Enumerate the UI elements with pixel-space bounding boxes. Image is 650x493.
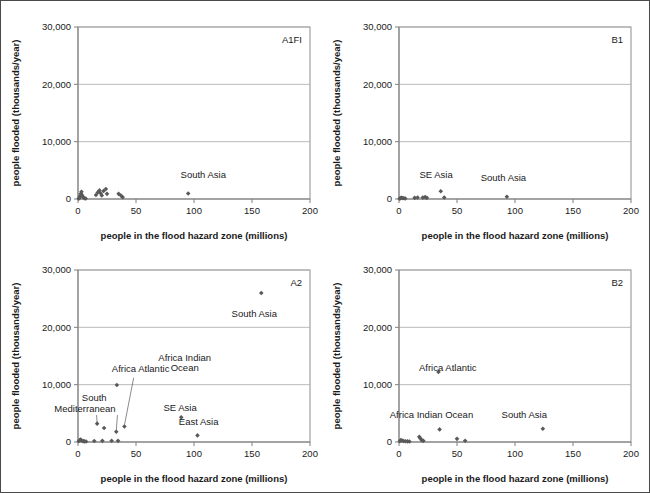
x-tick-label: 0 [396,205,401,216]
scatter-plot-a1fi: 010,00020,00030,000050100150200people in… [5,5,326,247]
x-tick-label: 150 [244,205,260,216]
data-label: Africa Atlantic [112,363,170,374]
x-axis-title: people in the flood hazard zone (million… [422,230,609,241]
x-tick-label: 150 [244,448,260,459]
y-tick-label: 10,000 [42,379,71,390]
data-label: South Asia [181,169,227,180]
data-label: Mediterranean [54,402,115,413]
panel-b2: 010,00020,00030,000050100150200people in… [326,248,647,491]
x-tick-label: 50 [131,205,142,216]
x-tick-label: 0 [396,448,401,459]
x-axis-title: people in the flood hazard zone (million… [422,473,609,484]
y-tick-label: 0 [66,436,71,447]
panel-code-label: A2 [290,277,302,288]
y-tick-label: 10,000 [42,136,71,147]
x-tick-label: 50 [131,448,142,459]
data-label: South Asia [481,172,527,183]
y-tick-label: 20,000 [42,321,71,332]
x-tick-label: 0 [75,205,80,216]
x-tick-label: 50 [452,205,463,216]
x-axis-title: people in the flood hazard zone (million… [101,230,288,241]
x-tick-label: 200 [302,205,318,216]
y-tick-label: 0 [387,193,392,204]
scatter-plot-a2: 010,00020,00030,000050100150200people in… [5,248,326,490]
panel-b1: 010,00020,00030,000050100150200people in… [326,5,647,248]
x-tick-label: 100 [507,448,523,459]
data-label: Africa Atlantic [419,362,477,373]
y-axis-title: people flooded (thousands/year) [10,282,21,429]
y-tick-label: 30,000 [42,21,71,32]
panel-grid: 010,00020,00030,000050100150200people in… [5,5,647,490]
x-tick-label: 150 [565,205,581,216]
data-label: SE Asia [419,169,453,180]
panel-code-label: A1FI [282,34,302,45]
figure-container: 010,00020,00030,000050100150200people in… [0,0,650,493]
x-axis-title: people in the flood hazard zone (million… [101,473,288,484]
scatter-plot-b1: 010,00020,00030,000050100150200people in… [326,5,647,247]
y-axis-title: people flooded (thousands/year) [331,282,342,429]
y-axis-title: people flooded (thousands/year) [10,40,21,187]
y-tick-label: 0 [66,193,71,204]
x-tick-label: 200 [623,448,639,459]
panel-a1fi: 010,00020,00030,000050100150200people in… [5,5,326,248]
y-axis-title: people flooded (thousands/year) [331,40,342,187]
y-tick-label: 30,000 [363,264,392,275]
y-tick-label: 20,000 [363,79,392,90]
data-label: Africa Indian [158,351,211,362]
y-tick-label: 30,000 [42,264,71,275]
x-tick-label: 100 [186,205,202,216]
data-label: Africa Indian Ocean [390,408,473,419]
data-label: East Asia [179,416,219,427]
x-tick-label: 0 [75,448,80,459]
x-tick-label: 150 [565,448,581,459]
panel-code-label: B2 [611,277,623,288]
data-label: Ocean [171,362,199,373]
panel-code-label: B1 [611,34,623,45]
y-tick-label: 30,000 [363,21,392,32]
scatter-plot-b2: 010,00020,00030,000050100150200people in… [326,248,647,490]
x-tick-label: 200 [623,205,639,216]
y-tick-label: 10,000 [363,379,392,390]
x-tick-label: 100 [507,205,523,216]
data-label: South Asia [232,308,278,319]
data-label: South Asia [502,408,548,419]
data-label: SE Asia [163,402,197,413]
y-tick-label: 0 [387,436,392,447]
y-tick-label: 20,000 [42,79,71,90]
y-tick-label: 20,000 [363,321,392,332]
panel-a2: 010,00020,00030,000050100150200people in… [5,248,326,491]
x-tick-label: 200 [302,448,318,459]
x-tick-label: 50 [452,448,463,459]
y-tick-label: 10,000 [363,136,392,147]
x-tick-label: 100 [186,448,202,459]
